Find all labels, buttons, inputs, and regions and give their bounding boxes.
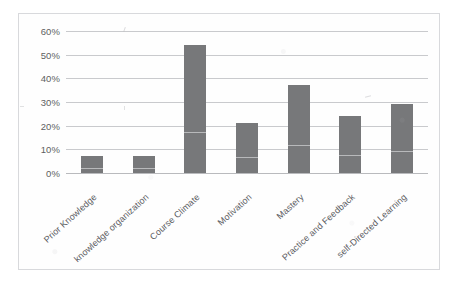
bar-slot (376, 31, 428, 173)
y-axis-tick-label: 30% (41, 97, 60, 108)
bar-slot (118, 31, 170, 173)
bar-slot (273, 31, 325, 173)
stray-mark-left (20, 106, 24, 107)
bar[interactable] (81, 156, 103, 173)
bar-slot (66, 31, 118, 173)
x-axis-label-slot: Motivation (221, 190, 273, 270)
y-axis-tick-label: 0% (46, 168, 60, 179)
y-axis-tick-label: 50% (41, 49, 60, 60)
x-axis-category-label: Motivation (216, 192, 254, 228)
chart-frame: 0%10%20%30%40%50%60% Prior Knowledgeknow… (18, 13, 440, 270)
x-axis-label-slot: self-Directed Learning (376, 190, 428, 270)
y-axis-tick-label: 60% (41, 26, 60, 37)
x-axis-category-labels: Prior Knowledgeknowledge organizationCou… (66, 190, 428, 270)
bar[interactable] (288, 85, 310, 173)
bar[interactable] (339, 116, 361, 173)
bar-series (66, 31, 428, 173)
bar-slot (325, 31, 377, 173)
y-axis-tick-label: 10% (41, 144, 60, 155)
bar[interactable] (184, 45, 206, 173)
bar-slot (221, 31, 273, 173)
x-axis-label-slot: Course Climate (169, 190, 221, 270)
plot-area: 0%10%20%30%40%50%60% (66, 31, 428, 173)
y-axis-tick-label: 20% (41, 120, 60, 131)
stray-mark-mid (124, 106, 125, 110)
bar[interactable] (133, 156, 155, 173)
bar-slot (169, 31, 221, 173)
x-axis-baseline (66, 173, 428, 174)
x-axis-category-label: Prior Knowledge (42, 192, 99, 245)
y-axis-tick-label: 40% (41, 73, 60, 84)
bar[interactable] (236, 123, 258, 173)
bar[interactable] (391, 104, 413, 173)
x-axis-category-label: Mastery (274, 192, 305, 221)
